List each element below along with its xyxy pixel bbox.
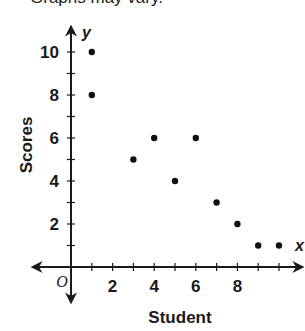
scatter-chart: 2468246810OyxStudentScores [0,0,305,331]
y-tick-label: 2 [50,215,59,234]
y-tick-label: 8 [50,86,59,105]
ticks [67,52,279,271]
x-tick-label: 2 [108,277,117,296]
data-point [172,178,178,184]
data-point [193,135,199,141]
data-point [130,156,136,162]
data-point [151,135,157,141]
data-point [89,49,95,55]
y-tick-label: 10 [40,43,59,62]
y-tick-label: 4 [50,172,60,191]
data-point [234,221,240,227]
data-point [276,242,282,248]
x-axis-letter: x [294,237,305,254]
data-point [213,199,219,205]
x-tick-label: 6 [191,277,200,296]
y-axis-title: Scores [17,117,36,174]
data-point [89,92,95,98]
origin-label: O [56,273,68,290]
x-tick-label: 4 [149,277,159,296]
labels: 2468246810OyxStudentScores [17,24,305,327]
y-axis-letter: y [81,24,92,41]
data-point [255,242,261,248]
x-tick-label: 8 [233,277,242,296]
axes [33,27,302,302]
y-tick-label: 6 [50,129,59,148]
x-axis-title: Student [148,308,212,327]
data-points [89,49,283,249]
